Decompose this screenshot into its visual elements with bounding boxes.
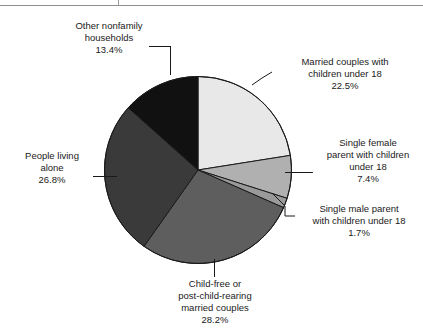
- slice-label-living-alone: People living alone 26.8%: [6, 150, 98, 186]
- slice-label-married-children-line2: children under 18: [275, 68, 415, 80]
- leader-line-other-nonfamily-vertical: [170, 46, 171, 75]
- slice-label-single-female: Single female parent with children under…: [316, 137, 420, 185]
- slice-label-other-nonfamily-line1: Other nonfamily: [50, 20, 168, 32]
- slice-label-single-female-line3: under 18: [316, 161, 420, 173]
- slice-label-child-free-line3: married couples: [140, 302, 290, 314]
- slice-percent-married-children: 22.5%: [275, 80, 415, 92]
- slice-label-single-male-line1: Single male parent: [297, 203, 421, 215]
- slice-percent-single-male: 1.7%: [297, 227, 421, 239]
- leader-line-single-female: [285, 172, 313, 173]
- slice-percent-living-alone: 26.8%: [6, 174, 98, 186]
- slice-label-other-nonfamily-line2: households: [50, 32, 168, 44]
- slice-percent-child-free: 28.2%: [140, 314, 290, 326]
- slice-label-married-children-line1: Married couples with: [275, 56, 415, 68]
- chart-page: Other nonfamily households 13.4% Married…: [0, 0, 423, 335]
- slice-label-other-nonfamily: Other nonfamily households 13.4%: [50, 20, 168, 56]
- page-header-rule: [0, 5, 423, 6]
- slice-label-single-male: Single male parent with children under 1…: [297, 203, 421, 239]
- slice-percent-single-female: 7.4%: [316, 173, 420, 185]
- slice-label-living-alone-line1: People living: [6, 150, 98, 162]
- slice-percent-other-nonfamily: 13.4%: [50, 44, 168, 56]
- slice-label-child-free-line2: post-child-rearing: [140, 290, 290, 302]
- page-header-tick: [118, 0, 119, 6]
- pie-chart: [104, 76, 292, 264]
- slice-label-child-free: Child-free or post-child-rearing married…: [140, 278, 290, 326]
- leader-line-child-free: [214, 259, 215, 277]
- slice-label-single-female-line1: Single female: [316, 137, 420, 149]
- slice-label-married-children: Married couples with children under 18 2…: [275, 56, 415, 92]
- slice-label-single-female-line2: parent with children: [316, 149, 420, 161]
- slice-label-child-free-line1: Child-free or: [140, 278, 290, 290]
- slice-label-living-alone-line2: alone: [6, 162, 98, 174]
- pie-chart-svg: [104, 76, 292, 264]
- slice-label-single-male-line2: with children under 18: [297, 215, 421, 227]
